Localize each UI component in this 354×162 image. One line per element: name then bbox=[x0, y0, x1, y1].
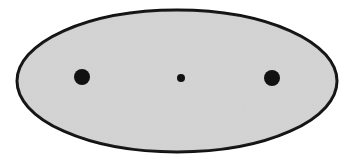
center-point bbox=[177, 74, 185, 82]
ellipse-diagram bbox=[0, 0, 354, 162]
ellipse-texture bbox=[17, 10, 337, 152]
left-focus-point bbox=[74, 69, 90, 85]
diagram-svg bbox=[0, 0, 354, 162]
right-focus-point bbox=[264, 70, 280, 86]
